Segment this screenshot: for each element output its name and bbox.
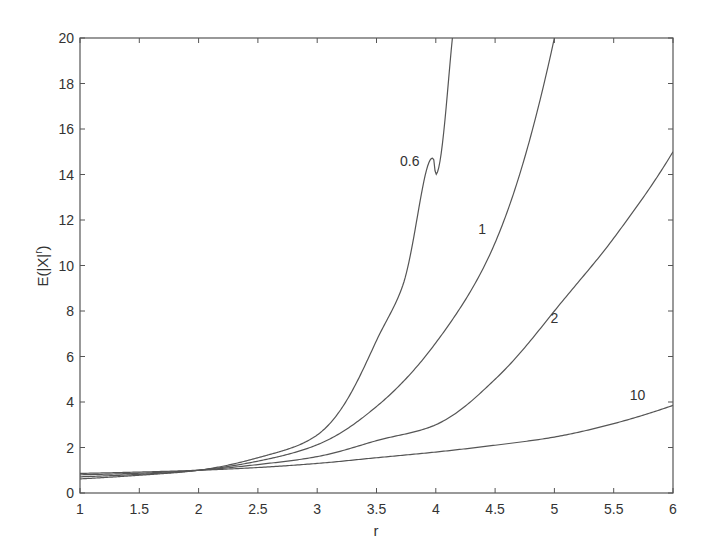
- y-tick-label: 16: [58, 121, 74, 137]
- curve-10: [80, 405, 673, 473]
- x-tick-label: 2.5: [248, 501, 268, 517]
- y-tick-label: 4: [66, 394, 74, 410]
- y-tick-label: 0: [66, 485, 74, 501]
- curve-0-6: [80, 38, 452, 479]
- curve-labels: 0.61210: [400, 153, 645, 403]
- x-tick-label: 3.5: [367, 501, 387, 517]
- y-tick-label: 8: [66, 303, 74, 319]
- x-tick-label: 1.5: [130, 501, 150, 517]
- x-tick-label: 5.5: [604, 501, 624, 517]
- y-tick-label: 6: [66, 349, 74, 365]
- x-tick-label: 2: [195, 501, 203, 517]
- axis-tick-labels: 11.522.533.544.555.5602468101214161820: [58, 30, 677, 517]
- axis-ticks: [80, 38, 673, 493]
- curve-1: [80, 38, 554, 477]
- curve-label: 2: [551, 310, 559, 326]
- x-tick-label: 3: [313, 501, 321, 517]
- y-tick-label: 20: [58, 30, 74, 46]
- axes-box: [80, 38, 673, 493]
- y-tick-label: 10: [58, 258, 74, 274]
- x-tick-label: 6: [669, 501, 677, 517]
- curve-label: 0.6: [400, 153, 420, 169]
- y-tick-label: 18: [58, 76, 74, 92]
- curve-label: 10: [630, 387, 646, 403]
- plot-frame: [80, 38, 673, 493]
- x-axis-label: r: [374, 522, 379, 539]
- x-tick-label: 1: [76, 501, 84, 517]
- y-tick-label: 2: [66, 440, 74, 456]
- y-axis-label: E(|X|r): [33, 245, 51, 286]
- curves: [80, 38, 673, 479]
- x-tick-label: 4: [432, 501, 440, 517]
- x-tick-label: 5: [551, 501, 559, 517]
- y-tick-label: 12: [58, 212, 74, 228]
- curve-label: 1: [478, 221, 486, 237]
- line-chart: 11.522.533.544.555.5602468101214161820 0…: [0, 0, 709, 554]
- x-tick-label: 4.5: [485, 501, 505, 517]
- y-tick-label: 14: [58, 167, 74, 183]
- curve-2: [80, 152, 673, 475]
